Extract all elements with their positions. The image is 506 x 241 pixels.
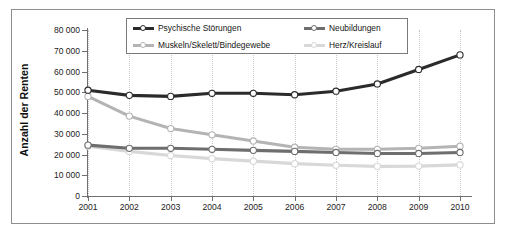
legend-label: Neubildungen xyxy=(329,24,381,32)
data-point xyxy=(457,162,463,168)
data-point xyxy=(168,93,174,99)
data-point xyxy=(457,52,463,58)
series-1 xyxy=(85,93,463,152)
series-line xyxy=(88,96,460,149)
data-point xyxy=(250,138,256,144)
data-point xyxy=(457,143,463,149)
chart-figure: Anzahl der Renten 010 00020 00030 00040 … xyxy=(0,0,506,241)
data-point xyxy=(333,149,339,155)
data-point xyxy=(250,147,256,153)
legend-marker-icon xyxy=(304,25,325,32)
data-point xyxy=(85,142,91,148)
data-point xyxy=(292,148,298,154)
legend-label: Herz/Kreislauf xyxy=(329,41,382,49)
data-point xyxy=(457,149,463,155)
data-point xyxy=(292,92,298,98)
data-point xyxy=(333,88,339,94)
legend-label: Psychische Störungen xyxy=(158,24,241,32)
data-point xyxy=(126,92,132,98)
data-point xyxy=(416,150,422,156)
data-point xyxy=(292,161,298,167)
data-point xyxy=(416,163,422,169)
series-0 xyxy=(85,52,463,100)
data-point xyxy=(209,132,215,138)
data-point xyxy=(126,113,132,119)
data-point xyxy=(374,81,380,87)
data-point xyxy=(374,150,380,156)
data-point xyxy=(126,145,132,151)
data-point xyxy=(209,146,215,152)
data-point xyxy=(85,87,91,93)
chart-legend: Psychische Störungen Neubildungen Muskel… xyxy=(126,18,408,54)
legend-item-muskeln-skelett-bindegewebe: Muskeln/Skelett/Bindegewebe xyxy=(133,41,304,49)
data-point xyxy=(250,158,256,164)
legend-marker-icon xyxy=(304,42,325,49)
legend-label: Muskeln/Skelett/Bindegewebe xyxy=(158,41,270,49)
data-point xyxy=(416,66,422,72)
series-line xyxy=(88,55,460,97)
data-point xyxy=(250,90,256,96)
data-point xyxy=(85,93,91,99)
legend-item-psychische-stoerungen: Psychische Störungen xyxy=(133,24,304,32)
data-point xyxy=(168,125,174,131)
data-point xyxy=(168,152,174,158)
data-point xyxy=(333,162,339,168)
legend-marker-icon xyxy=(133,42,154,49)
data-point xyxy=(168,145,174,151)
data-point xyxy=(374,163,380,169)
legend-marker-icon xyxy=(133,25,154,32)
legend-item-herz-kreislauf: Herz/Kreislauf xyxy=(304,41,415,49)
data-point xyxy=(209,156,215,162)
data-point xyxy=(209,90,215,96)
legend-item-neubildungen: Neubildungen xyxy=(304,24,415,32)
